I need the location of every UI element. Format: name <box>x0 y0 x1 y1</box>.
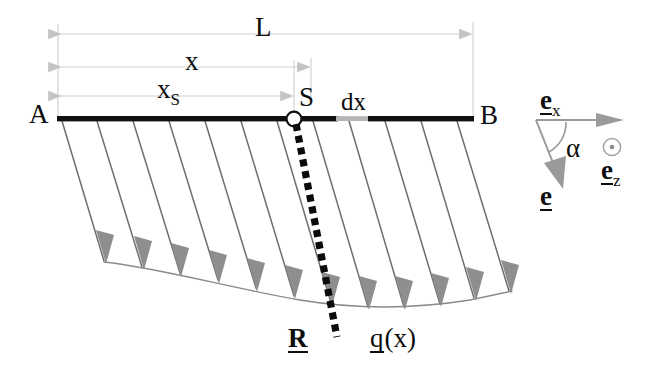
angle-alpha-arc <box>549 122 566 152</box>
figure-canvas: A B S dx L x xS R q(x) ex α ez e <box>0 0 662 378</box>
dimension-lines <box>60 34 471 96</box>
beam-element-dx <box>336 116 370 121</box>
dimension-label-L: L <box>255 14 272 41</box>
load-function-symbol: q <box>370 326 384 353</box>
beam-member <box>57 116 474 121</box>
element-label-dx: dx <box>341 89 366 114</box>
beam-label-A: A <box>29 101 49 128</box>
unit-vector-e-label: e <box>540 184 552 211</box>
load-function-label: q(x) <box>370 325 416 353</box>
circle-dot-icon <box>603 138 620 155</box>
resultant-R-line <box>296 124 337 337</box>
dimension-label-x: x <box>185 48 199 75</box>
dimension-label-xs: xS <box>157 76 180 103</box>
unit-vector-ex-label: ex <box>540 88 560 115</box>
dimension-label-xs-base: x <box>157 74 171 104</box>
resultant-label-R: R <box>288 325 308 353</box>
distributed-load-arrowheads <box>96 230 519 310</box>
angle-alpha-label: α <box>566 135 580 162</box>
dimension-label-xs-subscript: S <box>171 90 180 109</box>
load-envelope-curve <box>104 262 512 307</box>
beam-label-B: B <box>480 102 498 129</box>
load-function-argument: (x) <box>385 323 416 353</box>
unit-vector-ez-label: ez <box>601 158 621 185</box>
diagram-vector-layer <box>0 0 662 378</box>
node-label-S: S <box>299 84 314 111</box>
